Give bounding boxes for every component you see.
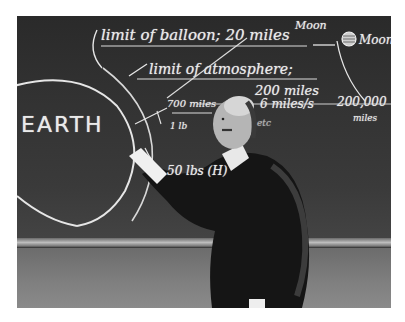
photograph: EARTH limit of balloon; 20 miles limit o… (17, 16, 391, 308)
atmosphere-arc (103, 68, 152, 221)
atmosphere-limit-text: limit of atmosphere; (149, 62, 293, 76)
etc-text: etc (257, 119, 271, 128)
arrow-icon (129, 64, 147, 76)
chalk-drawings (17, 16, 391, 308)
atmosphere-distance-text: 200 miles (255, 84, 319, 97)
moon-distance-unit: miles (353, 114, 377, 123)
earth-circle-outline (17, 80, 134, 226)
moon-label-top: Moon (295, 20, 327, 31)
weight-text: 1 lb (170, 122, 187, 131)
earth-label: EARTH (21, 114, 104, 136)
altitude-text: 700 miles (167, 99, 216, 109)
fifty-lbs-text: 50 lbs (H) (167, 165, 227, 177)
moon-label-right: Moon (359, 34, 391, 46)
speed-text: 6 miles/s (260, 98, 314, 110)
balloon-limit-text: limit of balloon; 20 miles (101, 28, 290, 43)
moon-distance-text: 200,000 (337, 96, 387, 108)
